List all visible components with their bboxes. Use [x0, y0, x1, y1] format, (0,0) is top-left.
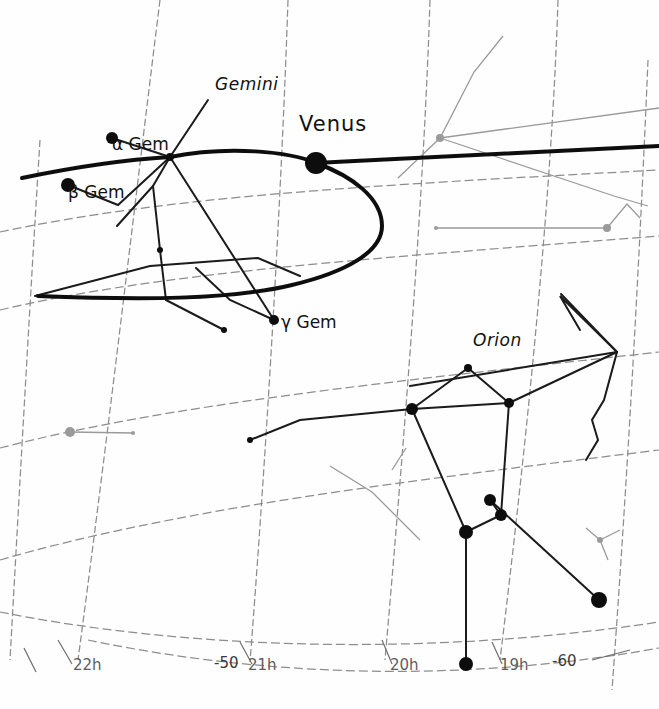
orion-line-left-side	[412, 409, 466, 532]
gemini-line-leader	[170, 100, 208, 157]
faint-star-left	[65, 427, 75, 437]
coordinate-grid-parallels	[0, 170, 659, 671]
venus-loop-path	[38, 151, 382, 299]
faint-star-right	[603, 224, 611, 232]
sky-canvas	[0, 0, 659, 709]
grid-meridian-21h	[250, 0, 288, 662]
faint-figure-right-lower	[586, 528, 620, 560]
tick-22h	[58, 640, 72, 664]
faint-star-bar-end	[131, 431, 135, 435]
venus-track-west	[22, 157, 170, 178]
faint-star-bar-end2	[434, 226, 438, 230]
star-betelgeuse	[406, 403, 418, 415]
grid-parallel-minus60	[0, 450, 659, 560]
star-venus	[305, 152, 327, 174]
faint-star-rlow	[597, 537, 603, 543]
grid-parallel-lower	[88, 640, 659, 671]
gemini-line-beta-leader	[117, 186, 153, 226]
star-rigel	[459, 657, 473, 671]
star-orion-out	[247, 437, 253, 443]
faint-figure-left-bar	[70, 432, 133, 433]
orion-line-zigzag	[561, 294, 617, 460]
faint-figure-right-hook	[607, 204, 640, 228]
grid-parallel-top	[0, 170, 659, 232]
grid-meridian-19h	[500, 0, 558, 660]
tick-dec60	[592, 650, 630, 660]
star-belt-c	[459, 525, 473, 539]
orion-line-right-side	[501, 403, 509, 515]
orion-line-left-out	[250, 409, 412, 440]
orion-line-topright	[410, 352, 617, 386]
grid-meridian-left-edge	[10, 140, 40, 660]
coordinate-grid	[10, 0, 648, 690]
star-alpha-gem	[106, 132, 118, 144]
star-belt-b	[495, 509, 507, 521]
star-gemini-node2	[157, 247, 163, 253]
star-chart: Venus Gemini Orion α Gem β Gem γ Gem 22h…	[0, 0, 659, 709]
orion-line-shoulders	[412, 403, 509, 409]
star-bellatrix	[504, 398, 514, 408]
star-meissa	[464, 364, 472, 372]
venus-track-east	[316, 146, 659, 163]
star-gemini-node	[166, 153, 174, 161]
star-beta-gem	[61, 178, 75, 192]
orion-line-meissa	[412, 368, 468, 409]
faint-figure-mid-b	[392, 448, 406, 470]
grid-meridian-22h	[78, 0, 160, 660]
gemini-line-hub	[153, 157, 224, 330]
faint-star-top	[436, 134, 444, 142]
tick-extra	[24, 648, 36, 672]
star-saiph	[591, 592, 607, 608]
faint-figure-mid	[330, 466, 420, 540]
grid-meridian-right-edge	[612, 60, 648, 690]
star-belt-a	[484, 494, 496, 506]
constellation-lines	[35, 100, 617, 664]
orion-line-upper-right	[509, 352, 617, 403]
star-gemini-node3	[221, 327, 227, 333]
grid-parallel-mid	[0, 352, 659, 448]
grid-parallel-bottom	[0, 612, 659, 645]
star-gamma-gem	[269, 315, 279, 325]
grid-meridian-20h	[385, 0, 430, 660]
faint-figure-topright-b	[440, 108, 659, 138]
